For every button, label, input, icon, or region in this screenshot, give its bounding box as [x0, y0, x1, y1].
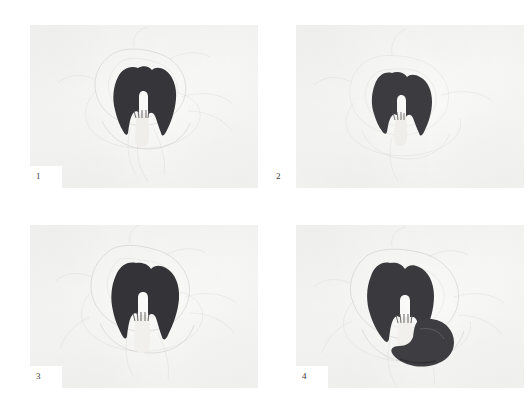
plate-image-3: [30, 225, 258, 388]
figure-panel-2: 2: [266, 0, 532, 199]
figure-plate-grid: 1 2: [0, 0, 532, 399]
panel-caption-3: 3: [36, 372, 41, 381]
panel-caption-2: 2: [276, 172, 281, 181]
figure-panel-4: 4: [266, 200, 532, 399]
figure-panel-1: 1: [0, 0, 266, 199]
specimen-shape-1: [30, 25, 258, 188]
figure-panel-3: 3: [0, 200, 266, 399]
plate-image-1: [30, 25, 258, 188]
specimen-shape-3: [30, 225, 258, 388]
panel-caption-1: 1: [36, 172, 41, 181]
plate-image-4: [296, 225, 524, 388]
specimen-shape-4: [296, 225, 524, 388]
plate-image-2: [296, 25, 524, 188]
panel-caption-4: 4: [302, 372, 307, 381]
specimen-shape-2: [296, 25, 524, 188]
